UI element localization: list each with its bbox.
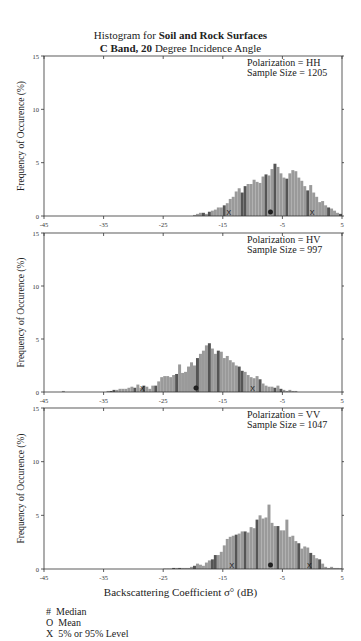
histogram-bar (232, 362, 235, 392)
y-tick-label: 15 (33, 230, 40, 237)
histogram-bar (262, 177, 265, 216)
histogram-bar (265, 517, 268, 569)
histogram-bar (279, 389, 282, 392)
histogram-bar (238, 367, 241, 392)
panel-annotation: Sample Size = 1205 (247, 67, 327, 78)
x-tick-label: -25 (159, 574, 168, 581)
x-tick-label: -35 (99, 221, 108, 228)
histogram-bar (202, 213, 205, 216)
histogram-bar (270, 169, 273, 216)
y-tick-label: 5 (36, 159, 39, 166)
histogram-bar (187, 367, 190, 392)
histogram-bar (273, 526, 276, 569)
histogram-bar (238, 534, 241, 569)
histogram-bar (312, 555, 315, 569)
histogram-bar (166, 376, 169, 392)
y-tick-label: 0 (36, 566, 39, 573)
histogram-bar (303, 546, 306, 569)
histogram-bar (220, 552, 223, 569)
histogram-bar (163, 376, 166, 392)
x-tick-label: -5 (280, 397, 285, 404)
histogram-bar (199, 565, 202, 569)
histogram-bar (130, 387, 133, 392)
x-tick-label: -15 (218, 221, 227, 228)
histogram-bar (315, 558, 318, 569)
histogram-bar (172, 375, 175, 392)
histogram-bar (318, 559, 321, 569)
histogram-bar (256, 520, 259, 569)
histogram-panels: 051015-45-35-25-15-55Frequency of Occure… (0, 0, 361, 641)
mean-median-marker (268, 563, 272, 567)
x-tick-label: 5 (340, 397, 343, 404)
histogram-bar (202, 566, 205, 569)
y-tick-label: 10 (33, 458, 40, 465)
histogram-bar (181, 373, 184, 392)
histogram-bar (282, 530, 285, 569)
histogram-bar (268, 387, 271, 392)
histogram-bar (279, 530, 282, 569)
x-tick-label: -5 (280, 221, 285, 228)
histogram-bar (208, 212, 211, 216)
x-tick-label: -45 (40, 221, 49, 228)
p5-marker: X (140, 385, 145, 392)
legend-item-percentile: X 5% or 95% Level (46, 628, 129, 639)
p95-marker: X (250, 385, 255, 392)
histogram-bar (193, 566, 196, 569)
histogram-bar (217, 555, 220, 569)
histogram-bar (276, 386, 279, 392)
histogram-bar (265, 386, 268, 392)
histogram-bar (303, 186, 306, 216)
histogram-bar (226, 356, 229, 392)
histogram-bar (330, 209, 333, 216)
x-tick-label: -35 (99, 397, 108, 404)
histogram-bar (211, 211, 214, 216)
histogram-bar (262, 384, 265, 392)
histogram-bar (235, 535, 238, 569)
histogram-bar (285, 520, 288, 569)
histogram-bar (223, 545, 226, 569)
y-axis-label: Frequency of Occurence (%) (16, 258, 27, 368)
histogram-bar (321, 201, 324, 216)
histogram-bar (333, 211, 336, 216)
histogram-bar (247, 184, 250, 216)
histogram-bar (160, 377, 163, 392)
x-tick-label: 5 (340, 574, 343, 581)
histogram-bar (127, 388, 130, 392)
histogram-bar (208, 560, 211, 569)
histogram-bar (306, 190, 309, 216)
histogram-bar (259, 379, 262, 392)
histogram-bar (190, 362, 193, 392)
histogram-bar (300, 549, 303, 569)
y-tick-label: 15 (33, 405, 40, 412)
histogram-bar (241, 193, 244, 216)
p5-marker: X (226, 209, 231, 216)
histogram-bar (223, 358, 226, 392)
histogram-bar (259, 515, 262, 569)
histogram-bar (324, 205, 327, 216)
mean-median-marker (268, 210, 272, 214)
y-tick-label: 0 (36, 389, 39, 396)
histogram-bar (220, 352, 223, 392)
histogram-bar (238, 188, 241, 216)
histogram-bar (196, 564, 199, 569)
histogram-bar (124, 389, 127, 392)
histogram-bar (232, 197, 235, 216)
histogram-bar (145, 387, 148, 392)
histogram-bar (169, 377, 172, 392)
histogram-bar (244, 372, 247, 392)
histogram-bar (288, 537, 291, 569)
histogram-bar (318, 202, 321, 216)
x-tick-label: -15 (218, 397, 227, 404)
histogram-bar (214, 354, 217, 392)
histogram-bar (247, 375, 250, 392)
histogram-bar (205, 345, 208, 392)
x-tick-label: -45 (40, 574, 49, 581)
histogram-bar (226, 539, 229, 569)
y-axis-label: Frequency of Occurence (%) (16, 434, 27, 544)
y-tick-label: 0 (36, 213, 39, 220)
histogram-bar (202, 351, 205, 392)
x-tick-label: -5 (280, 574, 285, 581)
histogram-bar (282, 178, 285, 216)
histogram-bar (199, 213, 202, 216)
histogram-bar (279, 173, 282, 216)
